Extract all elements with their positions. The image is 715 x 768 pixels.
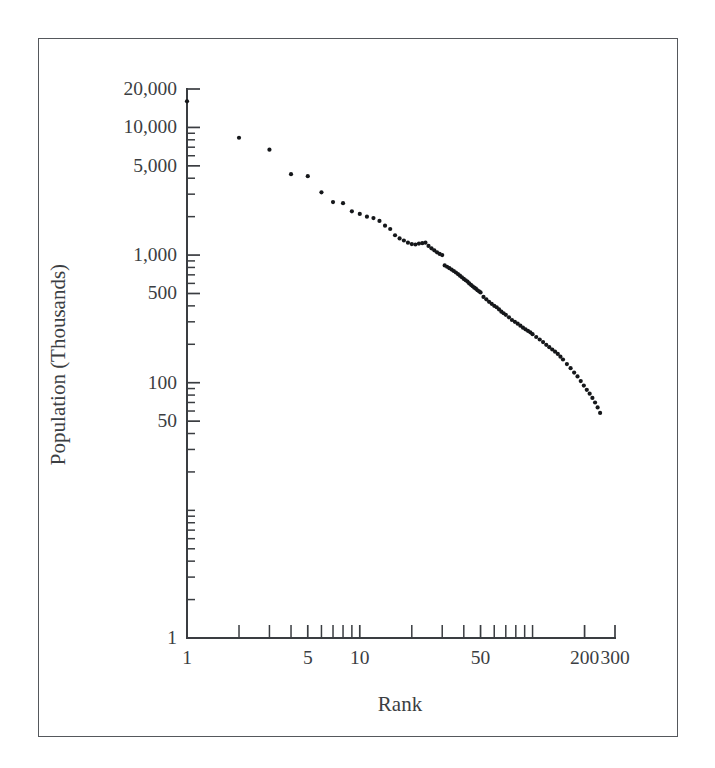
tick-marks-group — [187, 89, 615, 638]
y-axis-title: Population (Thousands) — [46, 225, 71, 505]
data-points-group — [185, 99, 602, 415]
x-tick-label-10: 10 — [320, 648, 400, 668]
data-point — [406, 241, 410, 245]
data-point — [383, 224, 387, 228]
data-point — [350, 209, 354, 213]
data-point — [341, 201, 345, 205]
y-tick-label-5000: 5,000 — [62, 156, 177, 176]
data-point — [423, 241, 427, 245]
data-point — [371, 216, 375, 220]
data-point — [579, 379, 583, 383]
data-point — [575, 374, 579, 378]
data-point — [398, 236, 402, 240]
data-point — [538, 337, 542, 341]
y-tick-label-1000: 1,000 — [62, 245, 177, 265]
data-point — [267, 148, 271, 152]
data-point — [410, 242, 414, 246]
data-point — [402, 238, 406, 242]
data-point — [598, 411, 602, 415]
data-point — [585, 388, 589, 392]
x-tick-label-1: 1 — [147, 648, 227, 668]
axis-spine — [187, 89, 615, 638]
data-point — [377, 219, 381, 223]
data-point — [388, 227, 392, 231]
data-point — [561, 357, 565, 361]
data-point — [289, 172, 293, 176]
data-point — [588, 392, 592, 396]
y-tick-label-100: 100 — [62, 373, 177, 393]
data-point — [237, 136, 241, 140]
y-tick-label-1: 1 — [62, 628, 177, 648]
y-tick-label-20000: 20,000 — [62, 79, 177, 99]
data-point — [306, 174, 310, 178]
data-point — [393, 233, 397, 237]
data-point — [593, 400, 597, 404]
data-point — [596, 405, 600, 409]
x-axis-title: Rank — [250, 692, 550, 717]
data-point — [185, 99, 189, 103]
data-point — [413, 242, 417, 246]
data-point — [440, 253, 444, 257]
data-point — [582, 383, 586, 387]
y-tick-label-50: 50 — [62, 411, 177, 431]
x-tick-label-300: 300 — [575, 648, 655, 668]
data-point — [572, 371, 576, 375]
data-point — [331, 200, 335, 204]
data-point — [565, 362, 569, 366]
axes-group — [187, 89, 615, 638]
data-point — [590, 396, 594, 400]
data-point — [319, 190, 323, 194]
figure-canvas: 20,00010,0005,0001,000500100501 15105020… — [0, 0, 715, 768]
y-tick-label-10000: 10,000 — [62, 117, 177, 137]
x-tick-label-50: 50 — [441, 648, 521, 668]
data-point — [530, 332, 534, 336]
data-point — [534, 335, 538, 339]
data-point — [568, 366, 572, 370]
y-tick-label-500: 500 — [62, 283, 177, 303]
data-point — [478, 290, 482, 294]
data-point — [541, 340, 545, 344]
data-point — [365, 215, 369, 219]
data-point — [358, 212, 362, 216]
